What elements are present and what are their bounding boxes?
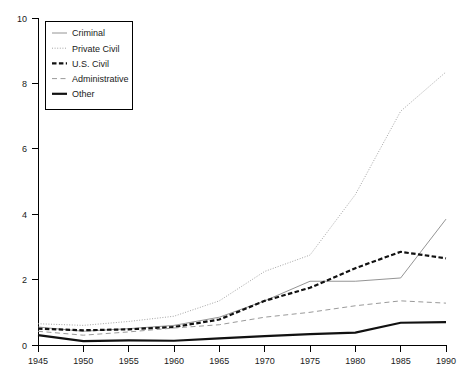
data-series-group <box>38 72 446 341</box>
chart-container: 0246810 19451950195519601965197019751980… <box>0 0 464 382</box>
y-tick-label: 2 <box>22 275 27 285</box>
legend-label-other: Other <box>72 89 95 99</box>
x-tick-label: 1990 <box>436 356 456 366</box>
series-line-u-s-civil <box>38 252 446 330</box>
x-tick-label: 1980 <box>345 356 365 366</box>
series-line-other <box>38 322 446 341</box>
legend-label-u-s-civil: U.S. Civil <box>72 59 109 69</box>
x-tick-label: 1985 <box>391 356 411 366</box>
y-tick-label: 10 <box>17 14 27 24</box>
x-tick-label: 1975 <box>300 356 320 366</box>
line-chart: 0246810 19451950195519601965197019751980… <box>0 0 464 382</box>
legend-label-criminal: Criminal <box>72 28 105 38</box>
y-axis-tick-group: 0246810 <box>17 14 38 351</box>
legend-label-private-civil: Private Civil <box>72 44 120 54</box>
x-axis-tick-group: 1945195019551960196519701975198019851990 <box>28 345 456 366</box>
x-tick-label: 1945 <box>28 356 48 366</box>
y-tick-label: 4 <box>22 210 27 220</box>
x-tick-label: 1950 <box>73 356 93 366</box>
x-tick-label: 1965 <box>209 356 229 366</box>
y-tick-label: 0 <box>22 341 27 351</box>
x-tick-label: 1970 <box>255 356 275 366</box>
legend-label-administrative: Administrative <box>72 74 129 84</box>
y-tick-label: 8 <box>22 79 27 89</box>
x-tick-label: 1955 <box>119 356 139 366</box>
series-line-criminal <box>38 219 446 331</box>
series-line-private-civil <box>38 72 446 325</box>
y-tick-label: 6 <box>22 144 27 154</box>
x-tick-label: 1960 <box>164 356 184 366</box>
chart-legend: CriminalPrivate CivilU.S. CivilAdministr… <box>45 21 132 109</box>
